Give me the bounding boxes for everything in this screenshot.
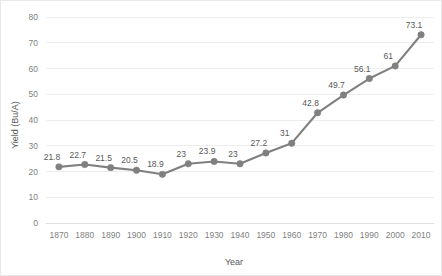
x-tick-label-1950: 1950 [256, 230, 275, 240]
data-point-1980 [340, 92, 346, 98]
data-label-2010: 73.1 [406, 20, 423, 30]
x-tick-label-1960: 1960 [282, 230, 301, 240]
data-label-2000: 61 [383, 51, 393, 61]
data-point-1910 [159, 171, 165, 177]
y-tick-label-0: 0 [33, 218, 38, 228]
x-tick-label-2000: 2000 [386, 230, 405, 240]
y-axis-title: Yield (Bu/A) [10, 101, 20, 149]
line-chart: 01020304050607080 1870188018901900191019… [1, 1, 442, 276]
data-point-1990 [366, 75, 372, 81]
x-tick-label-1880: 1880 [75, 230, 94, 240]
data-point-1970 [314, 110, 320, 116]
y-tick-label-60: 60 [29, 64, 39, 74]
data-point-1930 [211, 158, 217, 164]
data-label-1900: 20.5 [121, 155, 138, 165]
data-label-1930: 23.9 [199, 146, 216, 156]
data-label-1990: 56.1 [354, 64, 371, 74]
x-axis-title: Year [225, 257, 243, 267]
data-label-1980: 49.7 [328, 80, 345, 90]
y-tick-label-50: 50 [29, 89, 39, 99]
data-label-1970: 42.8 [302, 98, 319, 108]
x-tick-label-1980: 1980 [334, 230, 353, 240]
y-axis-tick-labels: 01020304050607080 [29, 12, 39, 228]
gridlines [46, 17, 434, 223]
data-label-1940: 23 [228, 149, 238, 159]
data-label-1950: 27.2 [251, 138, 268, 148]
data-label-1920: 23 [177, 149, 187, 159]
y-tick-label-40: 40 [29, 115, 39, 125]
x-tick-label-1870: 1870 [49, 230, 68, 240]
x-axis-tick-labels: 1870188018901900191019201930194019501960… [49, 230, 430, 240]
x-tick-label-1990: 1990 [360, 230, 379, 240]
data-label-1880: 22.7 [70, 150, 87, 160]
data-point-1920 [185, 161, 191, 167]
data-label-1960: 31 [280, 128, 290, 138]
data-point-1950 [263, 150, 269, 156]
x-tick-label-1940: 1940 [231, 230, 250, 240]
data-point-1870 [56, 164, 62, 170]
x-tick-label-1930: 1930 [205, 230, 224, 240]
y-tick-label-20: 20 [29, 167, 39, 177]
x-tick-label-1900: 1900 [127, 230, 146, 240]
y-tick-label-80: 80 [29, 12, 39, 22]
data-label-1910: 18.9 [147, 159, 164, 169]
x-tick-label-1910: 1910 [153, 230, 172, 240]
x-tick-label-1970: 1970 [308, 230, 327, 240]
data-point-1940 [237, 161, 243, 167]
data-point-1890 [107, 164, 113, 170]
data-point-1960 [289, 140, 295, 146]
y-tick-label-70: 70 [29, 38, 39, 48]
x-tick-label-2010: 2010 [412, 230, 431, 240]
y-tick-label-30: 30 [29, 141, 39, 151]
data-point-1880 [82, 161, 88, 167]
data-point-1900 [133, 167, 139, 173]
y-tick-label-10: 10 [29, 192, 39, 202]
x-tick-label-1920: 1920 [179, 230, 198, 240]
data-point-2010 [418, 32, 424, 38]
data-label-1890: 21.5 [95, 153, 112, 163]
series-line-yield [59, 35, 421, 175]
data-point-2000 [392, 63, 398, 69]
chart-container: 01020304050607080 1870188018901900191019… [0, 0, 442, 276]
data-label-1870: 21.8 [44, 152, 61, 162]
x-tick-label-1890: 1890 [101, 230, 120, 240]
